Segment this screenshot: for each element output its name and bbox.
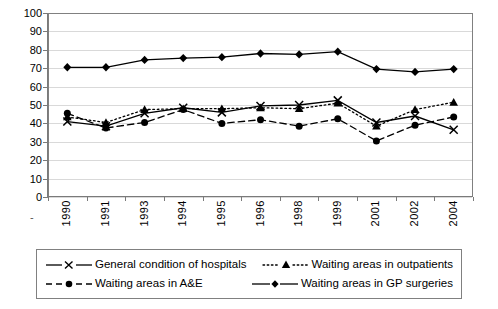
data-point-marker	[334, 115, 341, 122]
data-point-marker	[141, 119, 148, 126]
data-point-marker	[449, 98, 458, 106]
y-tick-label: 100	[24, 8, 42, 19]
legend-symbol-x-solid-line	[45, 258, 93, 272]
data-point-marker	[102, 125, 109, 132]
legend-row: Waiting areas in A&E Waiting areas in GP…	[45, 274, 453, 293]
legend-item-waiting-areas-in-gp-surgeries[interactable]: Waiting areas in GP surgeries	[251, 274, 453, 293]
x-tick-label: 1995	[216, 200, 227, 226]
legend-item-general-condition-of-hospitals[interactable]: General condition of hospitals	[45, 255, 262, 274]
data-point-marker	[257, 49, 265, 57]
x-axis-line	[48, 196, 473, 197]
x-tick-label: 1994	[177, 200, 188, 226]
data-point-marker	[218, 120, 225, 127]
x-tick-mark	[87, 197, 88, 201]
x-tick-mark	[434, 197, 435, 201]
series-general-condition-of-hospitals	[63, 96, 457, 133]
series-waiting-areas-in-a-e	[64, 106, 457, 144]
legend-label: General condition of hospitals	[95, 258, 247, 271]
series-waiting-areas-in-gp-surgeries	[63, 47, 457, 76]
x-tick-mark	[357, 197, 358, 201]
legend-symbol-triangle-dotted-line	[262, 258, 310, 272]
legend-item-waiting-areas-in-outpatients[interactable]: Waiting areas in outpatients	[262, 255, 454, 274]
data-point-marker	[179, 54, 187, 62]
y-tick-label: 10	[30, 173, 42, 184]
y-tick-label: 90	[30, 26, 42, 37]
y-tick-mark	[43, 31, 48, 32]
data-point-marker	[334, 47, 342, 55]
x-tick-label: 1990	[61, 200, 72, 226]
gridline	[49, 197, 472, 198]
y-tick-mark	[43, 142, 48, 143]
y-tick-mark	[43, 123, 48, 124]
series-line	[67, 110, 453, 141]
x-tick-mark	[48, 197, 49, 201]
chart-container: 1009080706050403020100 19901991199319941…	[0, 0, 498, 309]
x-tick-mark	[125, 197, 126, 201]
x-tick-mark	[241, 197, 242, 201]
x-tick-label: 1991	[100, 200, 111, 226]
y-axis: 1009080706050403020100	[10, 13, 46, 197]
data-point-marker	[140, 105, 149, 113]
data-point-marker	[141, 56, 149, 64]
x-axis-stub: -	[30, 212, 34, 223]
data-point-marker	[63, 63, 71, 71]
x-tick-label: 2001	[370, 200, 381, 226]
x-tick-label: 1998	[293, 200, 304, 226]
legend-symbol-diamond-solid-line	[251, 277, 299, 291]
data-point-marker	[411, 105, 420, 113]
data-series-layer	[48, 13, 473, 197]
data-point-marker	[450, 113, 457, 120]
series-waiting-areas-in-outpatients	[63, 98, 458, 130]
y-tick-label: 60	[30, 81, 42, 92]
legend-label: Waiting areas in GP surgeries	[301, 277, 453, 290]
chart-legend: General condition of hospitals Waiting a…	[36, 249, 462, 299]
legend-label: Waiting areas in A&E	[95, 277, 203, 290]
x-tick-mark	[203, 197, 204, 201]
data-point-marker	[64, 110, 71, 117]
x-tick-mark	[473, 197, 474, 201]
data-point-marker	[296, 123, 303, 130]
y-tick-mark	[43, 160, 48, 161]
y-tick-mark	[43, 68, 48, 69]
data-point-marker	[295, 50, 303, 58]
y-tick-label: 40	[30, 118, 42, 129]
x-tick-label: 2004	[448, 200, 459, 226]
x-tick-mark	[164, 197, 165, 201]
y-tick-label: 50	[30, 100, 42, 111]
y-tick-mark	[43, 13, 48, 14]
x-tick-label: 1993	[139, 200, 150, 226]
data-point-marker	[450, 126, 458, 134]
x-tick-label: 1996	[255, 200, 266, 226]
data-point-marker	[257, 116, 264, 123]
y-tick-label: 20	[30, 155, 42, 166]
x-tick-mark	[318, 197, 319, 201]
y-tick-label: 30	[30, 136, 42, 147]
legend-row: General condition of hospitals Waiting a…	[45, 255, 453, 274]
x-tick-mark	[396, 197, 397, 201]
x-tick-label: 1999	[332, 200, 343, 226]
data-point-marker	[102, 63, 110, 71]
data-point-marker	[373, 137, 380, 144]
data-point-marker	[218, 53, 226, 61]
legend-item-waiting-areas-in-ae[interactable]: Waiting areas in A&E	[45, 274, 251, 293]
legend-label: Waiting areas in outpatients	[312, 258, 454, 271]
y-tick-mark	[43, 179, 48, 180]
data-point-marker	[411, 68, 419, 76]
legend-symbol-circle-dashed-line	[45, 277, 93, 291]
y-tick-mark	[43, 50, 48, 51]
y-tick-label: 80	[30, 44, 42, 55]
y-tick-mark	[43, 87, 48, 88]
x-tick-mark	[280, 197, 281, 201]
data-point-marker	[412, 122, 419, 129]
x-tick-label: 2002	[409, 200, 420, 226]
data-point-marker	[372, 65, 380, 73]
y-tick-label: 70	[30, 63, 42, 74]
data-point-marker	[450, 65, 458, 73]
data-point-marker	[180, 106, 187, 113]
x-axis: 1990199119931994199519961998199920012002…	[0, 200, 498, 242]
y-tick-mark	[43, 105, 48, 106]
